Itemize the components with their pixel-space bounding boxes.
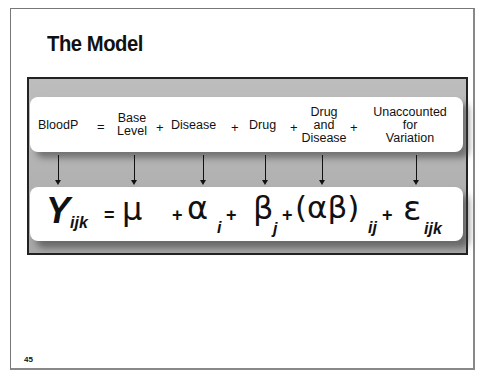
arrow-down-icon (134, 155, 135, 181)
label-base-level-line2: Level (112, 125, 152, 138)
label-base-level: Base Level (112, 112, 152, 138)
label-equals: = (97, 119, 105, 134)
formula-beta: β (253, 189, 273, 227)
slide-title: The Model (47, 31, 143, 57)
label-error-line3: Variation (370, 132, 450, 145)
formula-beta-sub: j (273, 220, 277, 238)
arrow-down-icon (203, 155, 204, 181)
formula-alpha-sub: i (217, 219, 221, 237)
formula-plus-4: + (382, 205, 393, 226)
formula-y-sub: ijk (70, 214, 88, 232)
formula-plus-3: + (282, 205, 293, 226)
label-interaction-line3: Disease (299, 132, 349, 145)
label-plus-4: + (350, 120, 358, 135)
label-disease: Disease (171, 119, 216, 132)
formula-mu: μ (122, 190, 142, 228)
arrow-down-icon (265, 155, 266, 181)
label-drug-and-disease: Drug and Disease (299, 106, 349, 145)
arrow-down-icon (58, 155, 59, 181)
label-plus-2: + (231, 120, 239, 135)
label-plus-3: + (290, 120, 298, 135)
formula-interaction: (αβ) (295, 189, 359, 225)
formula-equals: = (104, 205, 115, 226)
formula-epsilon-sub: ijk (424, 220, 442, 238)
formula-box (30, 187, 463, 241)
formula-plus-2: + (226, 205, 237, 226)
label-unaccounted-variation: Unaccounted for Variation (370, 106, 450, 145)
formula-y: Y (46, 190, 70, 232)
label-bloodp: BloodP (38, 119, 78, 132)
label-plus-1: + (156, 120, 164, 135)
formula-plus-1: + (172, 205, 183, 226)
formula-alpha: α (187, 189, 208, 227)
label-drug: Drug (249, 119, 276, 132)
arrow-down-icon (416, 155, 417, 181)
formula-interaction-sub: ij (368, 219, 377, 237)
page-number: 45 (24, 355, 33, 364)
formula-epsilon: ε (403, 188, 421, 228)
arrow-down-icon (322, 155, 323, 181)
